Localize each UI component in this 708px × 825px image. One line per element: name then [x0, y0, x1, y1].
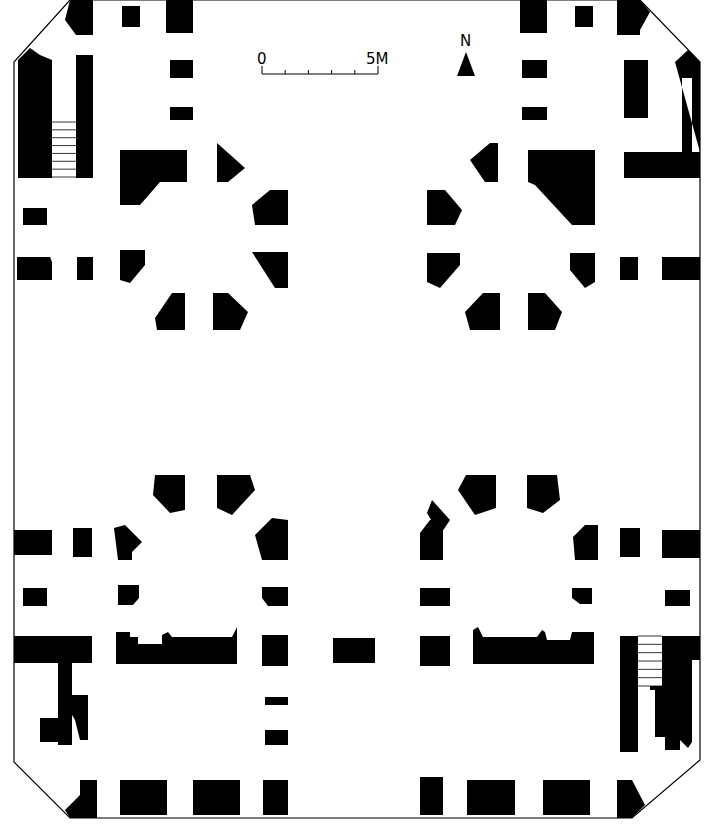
wall-pier: [23, 208, 47, 225]
wall-pier: [263, 780, 288, 815]
paper-background: [0, 0, 708, 825]
wall-pier: [18, 48, 52, 178]
wall-pier: [543, 780, 590, 815]
north-label: N: [460, 32, 471, 50]
wall-pier: [193, 780, 240, 815]
wall-pier: [420, 636, 450, 666]
wall-pier: [170, 107, 193, 120]
wall-pier: [120, 780, 167, 815]
wall-pier: [166, 0, 193, 33]
wall-pier: [17, 257, 52, 280]
wall-pier: [76, 55, 93, 178]
wall-pier: [122, 6, 140, 27]
wall-pier: [333, 638, 375, 663]
floor-plan: 0 5M N: [0, 0, 708, 825]
scale-bar-end-label: 5M: [366, 50, 389, 68]
wall-pier: [522, 107, 547, 120]
stair-southeast: [638, 636, 662, 686]
wall-pier: [23, 588, 47, 606]
wall-pier: [420, 588, 450, 606]
scale-bar-start-label: 0: [257, 50, 267, 68]
wall-pier: [73, 528, 92, 557]
wall-pier: [522, 60, 547, 78]
wall-pier: [467, 780, 515, 815]
stair-northwest: [52, 122, 76, 177]
wall-pier: [665, 590, 690, 606]
wall-pier: [265, 730, 288, 745]
wall-pier: [620, 257, 638, 280]
wall-pier: [520, 0, 547, 33]
wall-pier: [662, 257, 700, 280]
wall-pier: [77, 257, 93, 280]
wall-pier: [620, 528, 640, 557]
wall-pier: [420, 777, 443, 815]
wall-pier: [262, 635, 288, 666]
wall-pier: [575, 6, 593, 27]
wall-pier: [624, 60, 648, 118]
wall-pier: [14, 530, 52, 555]
wall-pier: [262, 587, 288, 606]
wall-pier: [170, 60, 193, 78]
wall-pier: [662, 530, 700, 558]
wall-pier: [265, 697, 288, 705]
